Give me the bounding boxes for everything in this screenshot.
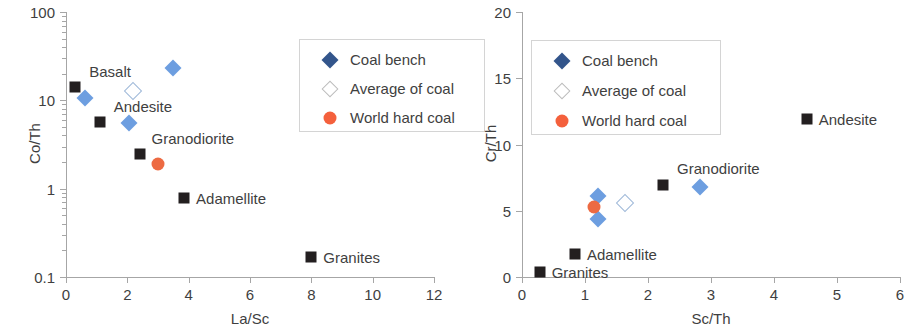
legend-item[interactable]: World hard coal [320,109,455,126]
x-axis-title: La/Sc [231,310,269,327]
data-point-filled-diamond [691,178,708,195]
y-axis-minor-tick [62,135,66,136]
y-axis-minor-tick [62,114,66,115]
y-axis-minor-tick [62,109,66,110]
x-axis-tick-label: 8 [307,286,315,303]
data-point-filled-square [70,82,81,93]
open-diamond-icon [554,82,571,99]
x-axis-tick [774,277,775,283]
chart-panel-right: 051015200123456Sc/ThCr/ThAndesiteGranodi… [456,0,913,333]
filled-circle-icon [556,114,569,127]
x-axis-tick-label: 10 [364,286,381,303]
y-axis-line [66,12,67,277]
y-axis-minor-tick [62,21,66,22]
y-axis-minor-tick [62,26,66,27]
x-axis-tick-label: 4 [770,286,778,303]
y-axis-minor-tick [62,224,66,225]
data-point-filled-square [801,114,812,125]
y-axis-title: Cr/Th [482,113,499,173]
legend-item[interactable]: World hard coal [552,112,687,129]
y-axis-minor-tick [62,47,66,48]
x-axis-tick [434,277,435,283]
legend-swatch [552,83,572,99]
filled-diamond-icon [322,51,339,68]
x-axis-tick-label: 6 [246,286,254,303]
y-axis-line [522,12,523,277]
y-axis-minor-tick [62,74,66,75]
x-axis-tick-label: 3 [707,286,715,303]
y-axis-minor-tick [62,39,66,40]
y-axis-tick-label: 20 [494,4,511,21]
y-axis-tick [516,78,522,79]
y-axis-tick [516,145,522,146]
legend-item-label: Coal bench [350,51,426,68]
legend-item[interactable]: Average of coal [320,80,454,97]
x-axis-tick [711,277,712,283]
y-axis-minor-tick [62,162,66,163]
data-point-label: Basalt [89,63,131,80]
legend-item-label: Average of coal [582,82,686,99]
x-axis-tick [373,277,374,283]
filled-diamond-icon [554,52,571,69]
legend-item[interactable]: Coal bench [552,52,658,69]
y-axis-tick-label: 15 [494,70,511,87]
x-axis-tick-label: 1 [581,286,589,303]
x-axis-tick [900,277,901,283]
y-axis-minor-tick [62,104,66,105]
legend-item[interactable]: Average of coal [552,82,686,99]
y-axis-tick-label: 1 [47,180,55,197]
data-point-label: Andesite [114,97,172,114]
data-point-label: Granites [323,248,380,265]
x-axis-tick-label: 2 [644,286,652,303]
y-axis-title: Co/Th [26,113,43,173]
y-axis-minor-tick [62,16,66,17]
x-axis-tick [66,277,67,283]
y-axis-tick [516,211,522,212]
y-axis-minor-tick [62,197,66,198]
x-axis-tick [837,277,838,283]
legend-item-label: Average of coal [350,80,454,97]
y-axis-tick [516,12,522,13]
x-axis-title: Sc/Th [691,310,730,327]
x-axis-tick [127,277,128,283]
y-axis-tick-label: 0.1 [34,269,55,286]
legend-swatch [552,113,572,129]
x-axis-tick [311,277,312,283]
y-axis-minor-tick [62,127,66,128]
x-axis-tick-label: 12 [426,286,443,303]
data-point-filled-circle [587,201,600,214]
y-axis-minor-tick [62,32,66,33]
plot-area-right: 051015200123456Sc/ThCr/ThAndesiteGranodi… [522,12,900,277]
legend-swatch [320,81,340,97]
legend-item-label: World hard coal [350,109,455,126]
data-point-filled-square [306,251,317,262]
y-axis-tick [60,100,66,101]
x-axis-tick-label: 0 [518,286,526,303]
y-axis-minor-tick [62,215,66,216]
data-point-filled-square [569,248,580,259]
legend-swatch [320,52,340,68]
x-axis-tick [189,277,190,283]
data-point-filled-square [94,116,105,127]
x-axis-tick-label: 2 [123,286,131,303]
data-point-filled-circle [152,158,165,171]
data-point-open-diamond [615,194,633,212]
open-diamond-icon [322,80,339,97]
plot-area-left: 0.1110100024681012La/ScCo/ThBasaltAndesi… [66,12,434,277]
x-axis-tick-label: 6 [896,286,904,303]
data-point-label: Granodiorite [152,129,235,146]
y-axis-tick-label: 100 [30,4,55,21]
data-point-filled-diamond [120,114,137,131]
data-point-label: Adamellite [587,245,657,262]
y-axis-tick [60,12,66,13]
y-axis-minor-tick [62,147,66,148]
legend-item-label: Coal bench [582,52,658,69]
x-axis-tick [250,277,251,283]
y-axis-minor-tick [62,235,66,236]
filled-circle-icon [324,111,337,124]
y-axis-minor-tick [62,202,66,203]
legend-swatch [320,110,340,126]
legend-swatch [552,53,572,69]
y-axis-tick-label: 10 [38,92,55,109]
legend-item[interactable]: Coal bench [320,51,426,68]
